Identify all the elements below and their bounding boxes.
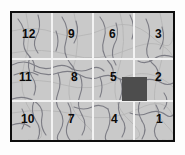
cell-label-2: 2	[155, 71, 162, 83]
cell-label-9: 9	[68, 28, 75, 40]
cell-label-7: 7	[68, 113, 75, 125]
highlighted-cell-block[interactable]	[122, 77, 147, 101]
cell-label-3: 3	[155, 28, 162, 40]
grid-line-horizontal-1	[12, 58, 173, 60]
cell-label-4: 4	[111, 113, 118, 125]
cell-label-10: 10	[21, 113, 34, 125]
grid-line-vertical-2	[92, 13, 94, 140]
cell-label-12: 12	[22, 28, 35, 40]
cell-label-1: 1	[156, 113, 163, 125]
grid-line-horizontal-2	[12, 100, 173, 102]
map-figure: 12 9 6 3 11 8 5 2 10 7 4 1	[0, 0, 185, 155]
grid-line-vertical-1	[51, 13, 53, 140]
cell-label-8: 8	[71, 71, 78, 83]
cell-label-11: 11	[19, 71, 32, 83]
cell-label-5: 5	[110, 71, 117, 83]
cell-label-6: 6	[109, 28, 116, 40]
